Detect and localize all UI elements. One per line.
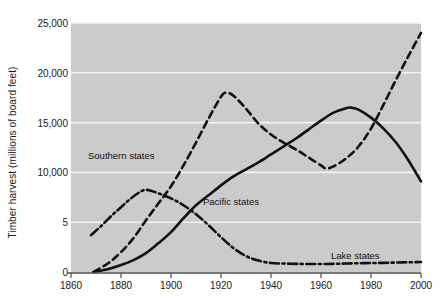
axis-ticks <box>71 273 421 278</box>
pacific-states-label: Pacific states <box>203 196 259 207</box>
plot-background <box>71 23 421 272</box>
lake-states-label: Lake states <box>331 250 380 261</box>
southern-states-label: Southern states <box>88 150 155 161</box>
timber-harvest-line-chart: Timber harvest (millions of board feet) … <box>0 0 446 305</box>
